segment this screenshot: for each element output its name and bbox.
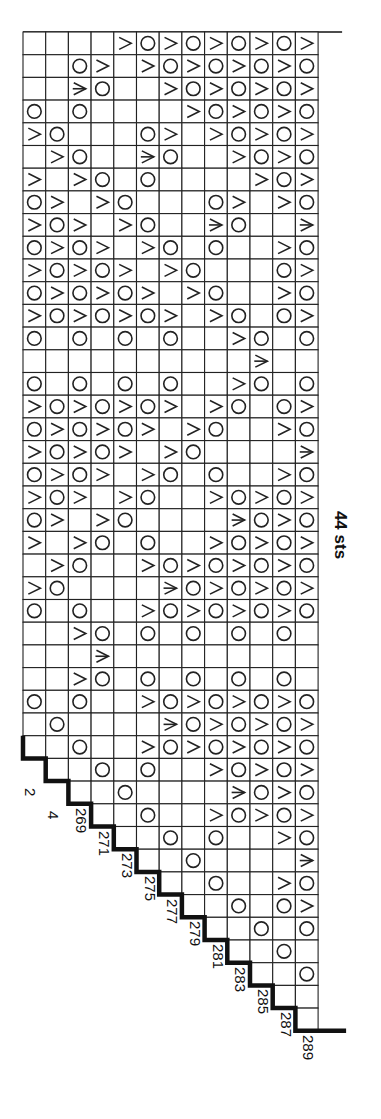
chart-cell [227, 418, 250, 441]
chart-cell [295, 77, 318, 100]
chart-cell [68, 463, 91, 486]
chart-cell [273, 236, 296, 259]
chart-cell [23, 168, 46, 191]
chart-cell [227, 441, 250, 464]
chart-cell [205, 895, 228, 918]
chart-cell [159, 827, 182, 850]
chart-cell [114, 804, 137, 827]
chart-cell [91, 32, 114, 55]
chart-cell [23, 600, 46, 623]
chart-cell [46, 758, 69, 781]
chart-cell [137, 600, 160, 623]
chart-cell [46, 509, 69, 532]
chart-cell [68, 600, 91, 623]
chart-cell [205, 600, 228, 623]
chart-cell [182, 463, 205, 486]
chart-cell [114, 282, 137, 305]
chart-cell [114, 531, 137, 554]
chart-cell [114, 304, 137, 327]
chart-cell [114, 486, 137, 509]
chart-cell [295, 259, 318, 282]
chart-cell [295, 463, 318, 486]
chart-cell [159, 758, 182, 781]
chart-cell [23, 327, 46, 350]
chart-cell [182, 282, 205, 305]
chart-cell [250, 940, 273, 963]
chart-cell [68, 395, 91, 418]
chart-cell [250, 577, 273, 600]
chart-cell [68, 418, 91, 441]
chart-cell [273, 214, 296, 237]
chart-cell [250, 304, 273, 327]
chart-cell [68, 373, 91, 396]
chart-cell [91, 373, 114, 396]
chart-cell [205, 463, 228, 486]
chart-cell [23, 531, 46, 554]
chart-cell [114, 77, 137, 100]
chart-cell [68, 509, 91, 532]
chart-cell [68, 441, 91, 464]
chart-cell [182, 77, 205, 100]
chart-cell [227, 486, 250, 509]
chart-cell [250, 395, 273, 418]
chart-cell [273, 963, 296, 986]
chart-cell [68, 713, 91, 736]
chart-cell [182, 827, 205, 850]
chart-cell [159, 146, 182, 169]
chart-cell [137, 441, 160, 464]
chart-cell [227, 304, 250, 327]
chart-cell [23, 509, 46, 532]
chart-cell [91, 214, 114, 237]
chart-cell [205, 191, 228, 214]
chart-cell [295, 350, 318, 373]
chart-cell [114, 827, 137, 850]
chart-cell [182, 690, 205, 713]
chart-cell [295, 191, 318, 214]
chart-cell [182, 123, 205, 146]
chart-cell [295, 827, 318, 850]
chart-cell [46, 668, 69, 691]
chart-cell [91, 146, 114, 169]
chart-cell [159, 100, 182, 123]
chart-cell [159, 600, 182, 623]
chart-cell [227, 146, 250, 169]
row-number-label: 289 [300, 1035, 317, 1060]
chart-cell [182, 804, 205, 827]
chart-cell [159, 486, 182, 509]
chart-cell [91, 736, 114, 759]
chart-cell [46, 463, 69, 486]
chart-cell [114, 100, 137, 123]
chart-cell [137, 350, 160, 373]
chart-cell [159, 350, 182, 373]
chart-cell [182, 758, 205, 781]
chart-cell [227, 55, 250, 78]
chart-cell [68, 123, 91, 146]
chart-cell [137, 781, 160, 804]
chart-cell [46, 55, 69, 78]
chart-cell [159, 123, 182, 146]
chart-cell [273, 373, 296, 396]
chart-cell [273, 690, 296, 713]
chart-cell [114, 690, 137, 713]
chart-cell [68, 327, 91, 350]
chart-cell [159, 736, 182, 759]
chart-cell [295, 554, 318, 577]
chart-cell [182, 531, 205, 554]
chart-cell [273, 123, 296, 146]
chart-cell [273, 32, 296, 55]
chart-cell [250, 758, 273, 781]
chart-cell [137, 304, 160, 327]
chart-cell [114, 645, 137, 668]
chart-cell [91, 758, 114, 781]
chart-cell [159, 690, 182, 713]
chart-cell [182, 622, 205, 645]
chart-cell [250, 486, 273, 509]
chart-cell [159, 645, 182, 668]
chart-cell [23, 350, 46, 373]
chart-cell [182, 441, 205, 464]
chart-cell [273, 486, 296, 509]
chart-cell [23, 55, 46, 78]
chart-cell [46, 622, 69, 645]
chart-cell [91, 191, 114, 214]
chart-cell [227, 259, 250, 282]
